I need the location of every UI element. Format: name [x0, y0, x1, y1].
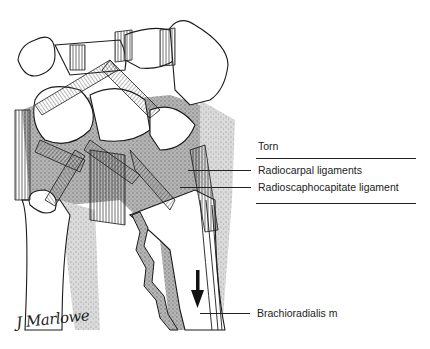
rule-top: [256, 158, 416, 159]
label-radiocarpal-ligaments: Radiocarpal ligaments: [258, 164, 362, 176]
label-radioscaphocapitate-ligament: Radioscaphocapitate ligament: [258, 181, 399, 193]
label-torn: Torn: [258, 140, 278, 152]
trapezium: [18, 37, 55, 76]
hamate: [170, 21, 228, 105]
leader-radiocarpal: [188, 170, 251, 171]
label-brachioradialis: Brachioradialis m: [257, 307, 338, 319]
leader-radioscaphocapitate: [180, 187, 251, 188]
wrist-anatomy-illustration: [0, 0, 430, 349]
leader-brachioradialis: [200, 313, 250, 314]
rule-bottom: [256, 203, 416, 204]
